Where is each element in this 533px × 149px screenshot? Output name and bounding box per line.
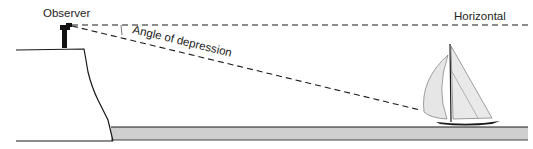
observer-figure [60,23,72,48]
water [111,127,528,140]
angle-of-depression-label: Angle of depression [132,23,234,58]
angle-of-depression-diagram: Observer Horizontal Angle of depression [0,0,533,149]
observer-label: Observer [43,7,90,19]
angle-arc [121,25,122,35]
horizontal-label: Horizontal [454,10,506,22]
line-of-sight [72,26,420,110]
sailboat [424,44,501,126]
cliff [16,49,113,141]
